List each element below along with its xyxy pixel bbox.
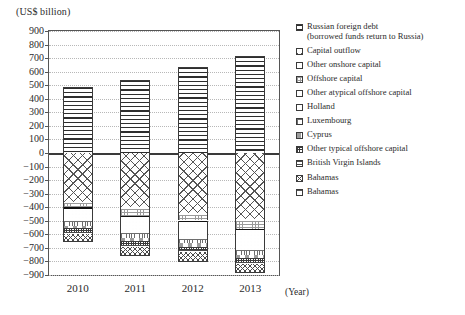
y-axis-tick-mark xyxy=(45,275,49,276)
legend-item-label: Bahamas xyxy=(307,173,339,183)
y-axis-tick-label: 900 xyxy=(29,26,44,36)
legend-swatch-icon xyxy=(296,48,303,55)
legend-swatch-icon xyxy=(296,146,303,153)
x-axis-tick-label-2012: 2012 xyxy=(182,282,204,294)
legend-swatch-icon xyxy=(296,189,303,196)
plot-area: 9008007006005004003002001000−100−200−300… xyxy=(48,30,280,276)
y-axis-tick-mark xyxy=(45,180,49,181)
bar-segment[interactable] xyxy=(235,230,265,249)
x-axis-tick-label-2013: 2013 xyxy=(239,282,261,294)
bar-2011[interactable] xyxy=(120,31,150,275)
bar-segment[interactable] xyxy=(63,234,93,243)
bar-segment[interactable] xyxy=(120,153,150,207)
legend-item-11[interactable]: Bahamas xyxy=(296,187,464,197)
y-axis-tick-mark xyxy=(45,112,49,113)
y-axis-tick-label: 500 xyxy=(29,80,44,90)
legend-item-label: Other atypical offshore capital xyxy=(307,88,412,98)
y-axis-tick-mark xyxy=(45,221,49,222)
bar-segment[interactable] xyxy=(178,153,208,213)
y-axis-tick-mark xyxy=(45,167,49,168)
legend-item-label: British Virgin Islands xyxy=(307,158,381,168)
legend-item-label: Capital outflow xyxy=(307,46,361,56)
legend-swatch-icon xyxy=(296,76,303,83)
y-axis-tick-label: 100 xyxy=(29,134,44,144)
legend-swatch-icon xyxy=(296,175,303,182)
legend-swatch-icon xyxy=(296,104,303,111)
y-axis-tick-label: −200 xyxy=(23,175,44,185)
bar-segment[interactable] xyxy=(120,247,150,256)
y-axis-tick-label: −300 xyxy=(23,189,44,199)
gridline xyxy=(49,275,279,276)
bar-segment[interactable] xyxy=(235,264,265,273)
legend-item-5[interactable]: Holland xyxy=(296,102,464,112)
bar-segment[interactable] xyxy=(235,56,265,153)
bar-segment[interactable] xyxy=(235,221,265,229)
legend-item-8[interactable]: Other typical offshore capital xyxy=(296,144,464,154)
legend-swatch-icon xyxy=(296,160,303,167)
legend-item-label: Russian foreign debt (borrowed funds ret… xyxy=(307,22,423,42)
legend-swatch-icon xyxy=(296,118,303,125)
legend-item-label: Holland xyxy=(307,102,335,112)
legend-item-label: Offshore capital xyxy=(307,74,362,84)
x-axis-tick-label-2010: 2010 xyxy=(67,282,89,294)
bar-segment[interactable] xyxy=(120,80,150,153)
legend-item-9[interactable]: British Virgin Islands xyxy=(296,158,464,168)
legend-item-label: Luxembourg xyxy=(307,116,351,126)
legend-item-3[interactable]: Offshore capital xyxy=(296,74,464,84)
y-axis-tick-label: 600 xyxy=(29,67,44,77)
legend-item-4[interactable]: Other atypical offshore capital xyxy=(296,88,464,98)
legend-item-2[interactable]: Other onshore capital xyxy=(296,60,464,70)
y-axis-tick-mark xyxy=(45,45,49,46)
bar-segment[interactable] xyxy=(178,222,208,239)
legend-item-label: Bahamas xyxy=(307,187,339,197)
chart-legend: Russian foreign debt (borrowed funds ret… xyxy=(296,22,464,201)
bar-2013[interactable] xyxy=(235,31,265,275)
y-axis-tick-label: 0 xyxy=(39,148,44,158)
y-axis-tick-label: −700 xyxy=(23,243,44,253)
y-axis-tick-label: −400 xyxy=(23,202,44,212)
y-axis-tick-mark xyxy=(45,139,49,140)
legend-item-7[interactable]: Cyprus xyxy=(296,130,464,140)
legend-swatch-icon xyxy=(296,62,303,69)
y-axis-tick-label: −600 xyxy=(23,229,44,239)
y-axis-tick-label: 300 xyxy=(29,107,44,117)
y-axis-tick-mark xyxy=(45,194,49,195)
bar-segment[interactable] xyxy=(63,209,93,221)
plot-inner: 9008007006005004003002001000−100−200−300… xyxy=(49,31,279,275)
legend-swatch-icon xyxy=(296,90,303,97)
y-axis-tick-mark xyxy=(45,72,49,73)
bar-2010[interactable] xyxy=(63,31,93,275)
legend-item-6[interactable]: Luxembourg xyxy=(296,116,464,126)
y-axis-tick-label: 200 xyxy=(29,121,44,131)
y-axis-tick-mark xyxy=(45,234,49,235)
legend-item-0[interactable]: Russian foreign debt (borrowed funds ret… xyxy=(296,22,464,42)
chart-figure: (US$ billion) 90080070060050040030020010… xyxy=(0,0,465,315)
y-axis-tick-label: 800 xyxy=(29,40,44,50)
bar-segment[interactable] xyxy=(63,87,93,153)
bar-segment[interactable] xyxy=(235,153,265,219)
y-axis-tick-mark xyxy=(45,248,49,249)
bar-segment[interactable] xyxy=(178,67,208,153)
bar-segment[interactable] xyxy=(120,209,150,216)
legend-item-label: Other typical offshore capital xyxy=(307,144,408,154)
y-axis-tick-label: −800 xyxy=(23,256,44,266)
y-axis-tick-label: −100 xyxy=(23,162,44,172)
y-axis-tick-label: 400 xyxy=(29,94,44,104)
bar-2012[interactable] xyxy=(178,31,208,275)
x-axis-unit-label: (Year) xyxy=(285,287,309,297)
y-axis-tick-mark xyxy=(45,31,49,32)
bar-segment[interactable] xyxy=(120,217,150,233)
legend-swatch-icon xyxy=(296,24,303,31)
legend-item-10[interactable]: Bahamas xyxy=(296,173,464,183)
bar-segment[interactable] xyxy=(178,252,208,262)
legend-item-1[interactable]: Capital outflow xyxy=(296,46,464,56)
bar-segment[interactable] xyxy=(63,153,93,202)
y-axis-unit-caption: (US$ billion) xyxy=(16,6,70,17)
legend-item-label: Other onshore capital xyxy=(307,60,381,70)
legend-swatch-icon xyxy=(296,132,303,139)
legend-item-label: Cyprus xyxy=(307,130,332,140)
y-axis-tick-mark xyxy=(45,126,49,127)
y-axis-tick-mark xyxy=(45,207,49,208)
y-axis-tick-mark xyxy=(45,99,49,100)
y-axis-tick-mark xyxy=(45,153,49,154)
